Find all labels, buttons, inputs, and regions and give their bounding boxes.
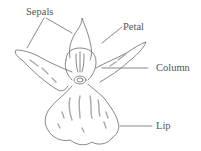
shading-marks — [30, 54, 126, 132]
petal-leader — [102, 27, 122, 43]
lip — [45, 84, 119, 145]
column — [76, 52, 84, 72]
label-column: Column — [156, 63, 190, 74]
orchid-illustration — [0, 0, 201, 151]
label-lip: Lip — [156, 121, 171, 132]
dorsal-sepal — [69, 18, 91, 60]
orchid-diagram: Sepals Petal Column Lip — [0, 0, 201, 151]
sepals-leader-left — [27, 18, 44, 48]
sepals-leader-right — [46, 18, 72, 33]
label-petal: Petal — [123, 22, 144, 33]
right-petal — [96, 42, 146, 82]
label-sepals: Sepals — [26, 7, 53, 18]
